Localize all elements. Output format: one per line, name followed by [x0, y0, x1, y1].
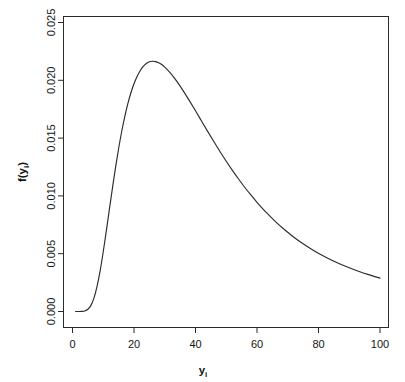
svg-text:yi: yi	[199, 364, 208, 379]
y-tick-label-1: 0.005	[45, 240, 57, 268]
density-curve	[76, 61, 380, 311]
y-axis-title: f(yi)	[16, 162, 31, 182]
y-tick-label-2: 0.010	[45, 182, 57, 210]
x-tick-label-3: 60	[251, 338, 263, 350]
x-tick-label-0: 0	[69, 338, 75, 350]
y-axis-title-main: f(y	[16, 167, 28, 182]
x-tick-label-4: 80	[312, 338, 324, 350]
y-axis-title-close: )	[16, 162, 28, 166]
svg-text:f(yi): f(yi)	[16, 162, 31, 182]
y-tick-label-5: 0.025	[45, 9, 57, 37]
x-axis-title-subscript: i	[205, 370, 207, 379]
y-tick-label-3: 0.015	[45, 124, 57, 152]
x-axis-tick-labels: 0 20 40 60 80 100	[69, 338, 389, 350]
y-tick-label-4: 0.020	[45, 67, 57, 95]
x-axis-ticks	[73, 328, 381, 334]
chart-figure: 0.000 0.005 0.010 0.015 0.020 0.025 0 20…	[0, 0, 405, 382]
x-tick-label-2: 40	[189, 338, 201, 350]
y-axis-ticks	[58, 23, 64, 312]
x-axis-title: yi	[199, 364, 208, 379]
x-tick-label-5: 100	[371, 338, 389, 350]
plot-frame	[64, 17, 389, 328]
x-tick-label-1: 20	[128, 338, 140, 350]
density-plot-svg: 0.000 0.005 0.010 0.015 0.020 0.025 0 20…	[0, 0, 405, 382]
y-axis-tick-labels: 0.000 0.005 0.010 0.015 0.020 0.025	[45, 9, 57, 326]
y-tick-label-0: 0.000	[45, 298, 57, 326]
